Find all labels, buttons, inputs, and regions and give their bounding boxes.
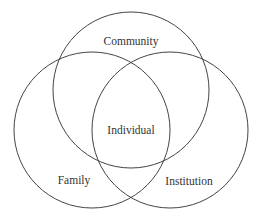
family-label: Family <box>58 174 91 187</box>
venn-diagram: Community Individual Family Institution <box>0 0 262 221</box>
institution-label: Institution <box>165 175 213 187</box>
individual-label: Individual <box>107 124 154 136</box>
community-label: Community <box>104 35 159 48</box>
